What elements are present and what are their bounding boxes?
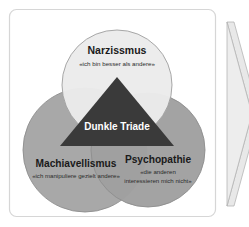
chevron-arrow-right xyxy=(227,22,249,206)
label-psychopathie-subtitle-line1: «die anderen xyxy=(140,168,176,175)
label-narzissmus-subtitle: «ich bin besser als andere» xyxy=(79,60,155,67)
label-narzissmus-title: Narzissmus xyxy=(88,44,147,56)
label-machiavellismus-title: Machiavellismus xyxy=(36,158,117,169)
label-machiavellismus-subtitle: «ich manipuliere gezielt andere» xyxy=(32,172,120,179)
label-psychopathie-subtitle-line2: interessieren mich nicht» xyxy=(124,177,192,184)
dark-triad-figure: Narzissmus «ich bin besser als andere» D… xyxy=(0,0,249,227)
label-psychopathie-title: Psychopathie xyxy=(125,154,192,165)
label-dunkle-triade: Dunkle Triade xyxy=(84,121,150,132)
venn-diagram-svg: Narzissmus «ich bin besser als andere» D… xyxy=(0,0,249,227)
